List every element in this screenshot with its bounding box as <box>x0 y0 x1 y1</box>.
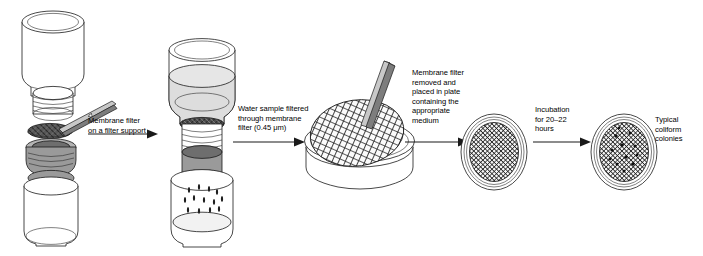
stage-petri-dish-colonies <box>588 112 660 194</box>
arrow-4 <box>533 134 593 150</box>
arrow-2 <box>233 134 307 150</box>
step-5-label: Typical coliform colonies <box>655 115 682 144</box>
gridded-membrane <box>600 123 649 182</box>
step-3-label: Membrane filter removed and placed in pl… <box>412 68 464 126</box>
step-4-label: Incubation for 20–22 hours <box>535 105 570 134</box>
receiving-flask <box>24 177 78 246</box>
receiving-flask-with-droplets <box>171 170 233 247</box>
funnel-threaded-neck <box>33 86 73 120</box>
stage-petri-dish-tilted <box>300 55 420 215</box>
step-1-label: Membrane filter on a filter support <box>88 116 146 135</box>
membrane-filtration-diagram: Membrane filter on a filter support Wate… <box>0 0 703 256</box>
upper-funnel-with-sample <box>169 39 235 124</box>
upper-funnel <box>22 11 84 96</box>
gridded-membrane <box>470 123 519 182</box>
stage-petri-dish-incubating <box>458 112 530 194</box>
step-2-label: Water sample filtered through membrane f… <box>238 104 308 133</box>
